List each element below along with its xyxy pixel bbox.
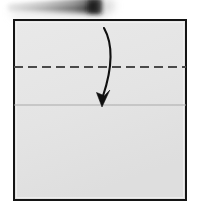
origami-diagram-figure: Origami fold step diagram Square sheet w… [0, 0, 199, 209]
bar-end-cap [88, 0, 101, 13]
bar-edge-falloff [100, 0, 114, 12]
paper-sheet [14, 20, 186, 200]
diagram-canvas [0, 0, 199, 209]
origami-square [14, 20, 186, 200]
